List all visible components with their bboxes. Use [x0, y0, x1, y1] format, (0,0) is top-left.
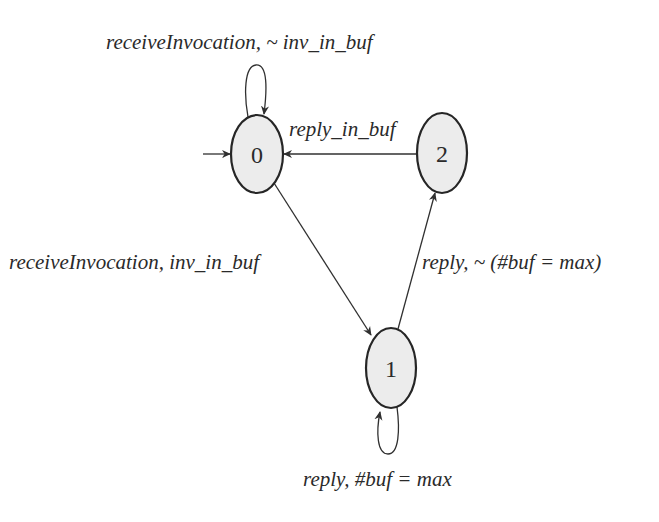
label-edge-0-to-1: receiveInvocation, inv_in_buf [9, 250, 262, 274]
self-loop-0 [246, 65, 266, 117]
state-1: 1 [366, 328, 416, 408]
state-0: 0 [231, 115, 283, 193]
state-0-label: 0 [251, 142, 263, 168]
label-edge-2-to-0: reply_in_buf [289, 117, 399, 141]
state-2-label: 2 [436, 141, 448, 167]
state-machine-diagram: 0 1 2 receiveInvocation, ~ inv_in_buf re… [0, 0, 659, 522]
state-1-label: 1 [385, 356, 397, 382]
label-self-loop-0: receiveInvocation, ~ inv_in_buf [106, 30, 376, 54]
label-self-loop-1: reply, #buf = max [303, 467, 452, 491]
self-loop-1 [378, 407, 399, 454]
label-edge-1-to-2: reply, ~ (#buf = max) [422, 250, 601, 274]
edge-0-to-1 [274, 183, 371, 335]
state-2: 2 [417, 113, 467, 193]
